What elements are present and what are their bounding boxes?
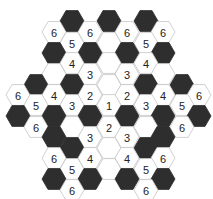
cell-number: 6: [196, 90, 202, 102]
cell-number: 3: [87, 69, 93, 81]
cell-number: 3: [124, 132, 130, 144]
cell-number: 6: [51, 153, 57, 165]
cell-number: 6: [69, 185, 75, 197]
cell-number: 6: [179, 122, 185, 134]
cell-number: 6: [160, 153, 166, 165]
cell-number: 6: [15, 90, 21, 102]
cell-number: 5: [143, 164, 149, 176]
cell-number: 6: [160, 27, 166, 39]
cell-number: 6: [143, 185, 149, 197]
cell-number: 5: [33, 100, 39, 112]
cell-number: 6: [51, 27, 57, 39]
cell-number: 5: [143, 38, 149, 50]
cell-number: 4: [160, 90, 166, 102]
cell-number: 3: [87, 132, 93, 144]
cell-number: 1: [106, 100, 112, 112]
hex-puzzle-board: 6666554433642246531356263364465566: [0, 0, 213, 199]
cell-number: 4: [143, 58, 149, 70]
cell-number: 6: [124, 27, 130, 39]
cell-number: 2: [124, 90, 130, 102]
cell-number: 6: [33, 122, 39, 134]
cell-number: 4: [69, 58, 75, 70]
cell-number: 4: [51, 90, 57, 102]
cell-number: 2: [87, 90, 93, 102]
cell-number: 5: [69, 164, 75, 176]
cell-number: 2: [106, 122, 112, 134]
cell-number: 5: [69, 38, 75, 50]
hex-grid: 6666554433642246531356263364465566: [0, 0, 213, 199]
cell-number: 3: [124, 69, 130, 81]
cell-number: 4: [124, 153, 130, 165]
cell-number: 3: [143, 100, 149, 112]
cell-number: 6: [87, 27, 93, 39]
cell-number: 5: [179, 100, 185, 112]
cell-number: 4: [87, 153, 93, 165]
cell-number: 3: [69, 100, 75, 112]
